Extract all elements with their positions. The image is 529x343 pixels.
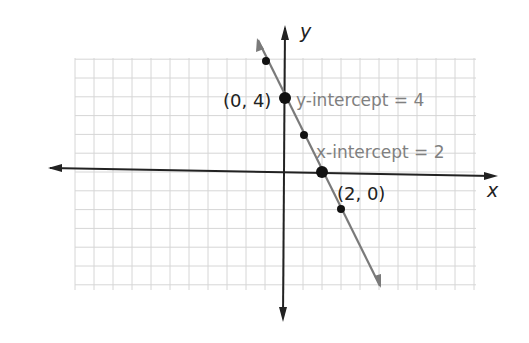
y-axis-label: y xyxy=(299,20,312,42)
data-point xyxy=(300,131,308,139)
y-axis-down-arrow-icon xyxy=(279,307,287,322)
point-label-y-intercept: (0, 4) xyxy=(223,90,271,111)
intercept-point xyxy=(279,92,291,104)
x-axis-label: x xyxy=(486,179,499,201)
data-point xyxy=(262,57,270,65)
plotted-line xyxy=(256,38,381,288)
x-axis-left-arrow-icon xyxy=(48,164,62,172)
annotation-x-intercept: x-intercept = 2 xyxy=(316,142,445,162)
y-axis xyxy=(279,25,289,322)
data-point xyxy=(337,205,345,213)
intercept-point xyxy=(316,166,328,178)
annotation-y-intercept: y-intercept = 4 xyxy=(296,90,424,110)
line-bottom-arrow-icon xyxy=(374,274,381,288)
graph: y x (0, 4) (2, 0) y-intercept = 4 x-inte… xyxy=(0,0,529,343)
point-label-x-intercept: (2, 0) xyxy=(337,183,385,204)
y-axis-up-arrow-icon xyxy=(281,25,289,40)
